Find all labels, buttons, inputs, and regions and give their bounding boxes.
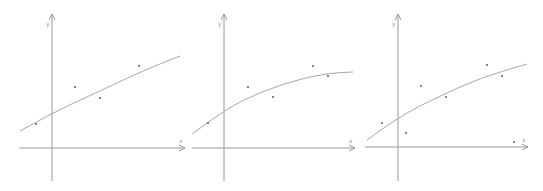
data-point [381, 122, 383, 124]
plots-svg: xyxyxy [0, 0, 543, 191]
data-point [247, 86, 249, 88]
data-point [312, 65, 314, 67]
y-axis-label: y [392, 20, 396, 28]
x-axis-label: x [179, 137, 183, 144]
data-point [513, 141, 515, 143]
data-point [35, 123, 37, 125]
data-point [327, 75, 329, 77]
chart-stage: xyxyxy [0, 0, 543, 191]
chart-panel-2: xy [192, 14, 355, 181]
fit-curve [367, 64, 527, 140]
y-axis-label: y [46, 20, 50, 28]
y-axis-label: y [218, 20, 222, 28]
chart-panel-1: xy [19, 14, 185, 181]
data-point [272, 96, 274, 98]
fit-curve [20, 56, 180, 131]
x-axis-label: x [349, 137, 353, 144]
data-point [405, 132, 407, 134]
chart-panel-3: xy [365, 14, 528, 181]
data-point [207, 122, 209, 124]
data-point [99, 97, 101, 99]
data-point [138, 65, 140, 67]
data-point [420, 85, 422, 87]
data-point [74, 86, 76, 88]
data-point [501, 75, 503, 77]
fit-curve [192, 72, 353, 134]
data-point [445, 96, 447, 98]
data-point [486, 64, 488, 66]
x-axis-label: x [522, 136, 526, 143]
